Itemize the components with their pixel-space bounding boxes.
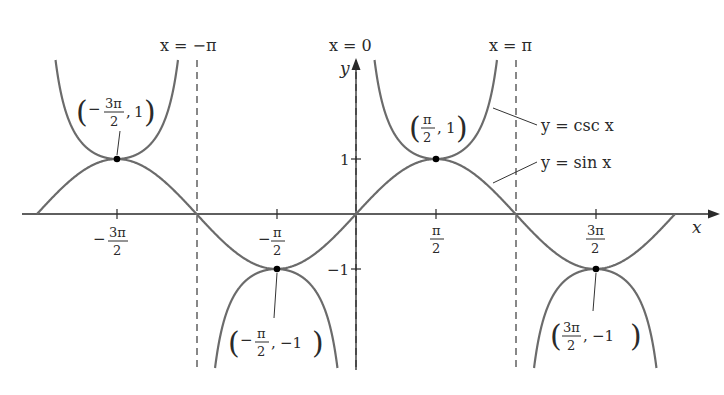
asymptote-label-zero: x = 0 — [329, 36, 372, 55]
x-tick-label-neg-pi2: − π 2 — [258, 225, 285, 258]
svg-text:−1: −1 — [280, 334, 302, 352]
x-tick-label-neg-3pi2: − 3π 2 — [93, 225, 128, 258]
asymptote-label-neg-pi: x = −π — [160, 36, 217, 55]
point-label-neg-3pi2: ( − 3π 2 , 1 ) — [76, 94, 156, 129]
legend-label-csc: y = csc x — [540, 116, 614, 135]
svg-text:−1: −1 — [592, 327, 614, 345]
svg-text:π: π — [423, 112, 432, 127]
y-axis-arrow-icon — [352, 58, 361, 70]
svg-text:2: 2 — [110, 114, 118, 129]
point-label-neg-pi2: ( − π 2 , −1 ) — [228, 325, 324, 360]
svg-text:): ) — [456, 110, 468, 145]
svg-text:,: , — [126, 103, 131, 121]
x-axis-arrow-icon — [708, 210, 720, 219]
point-neg-3pi2 — [114, 156, 121, 163]
svg-text:(: ( — [550, 318, 562, 353]
svg-text:): ) — [312, 325, 324, 360]
svg-text:1: 1 — [446, 119, 456, 137]
svg-text:−: − — [258, 230, 271, 248]
y-tick-label: −1 — [327, 261, 349, 279]
cosecant-branch — [375, 60, 497, 159]
svg-text:2: 2 — [273, 243, 281, 258]
svg-text:3π: 3π — [587, 223, 604, 238]
svg-text:−: − — [88, 100, 101, 118]
svg-text:(: ( — [409, 110, 421, 145]
y-tick-label: 1 — [340, 151, 350, 169]
svg-text:(: ( — [228, 325, 240, 360]
svg-text:,: , — [583, 327, 588, 345]
x-axis-label: x — [692, 217, 702, 237]
svg-text:(: ( — [76, 94, 88, 129]
svg-text:): ) — [630, 318, 642, 353]
leader-line — [274, 273, 277, 318]
svg-text:3π: 3π — [105, 96, 122, 111]
svg-text:π: π — [273, 225, 282, 240]
svg-text:,: , — [271, 334, 276, 352]
x-tick-label-3pi2: 3π 2 — [586, 223, 605, 256]
leader-line — [493, 162, 537, 183]
leader-line — [117, 131, 120, 155]
point-3pi2 — [593, 266, 600, 273]
leader-line — [593, 273, 596, 311]
svg-text:): ) — [144, 94, 156, 129]
svg-text:,: , — [437, 119, 442, 137]
svg-text:π: π — [257, 326, 266, 341]
asymptote-label-pi: x = π — [489, 36, 532, 55]
point-label-3pi2: ( 3π 2 , −1 ) — [550, 318, 642, 353]
svg-text:2: 2 — [257, 344, 265, 359]
point-pi2 — [433, 156, 440, 163]
svg-text:−: − — [93, 230, 106, 248]
svg-text:2: 2 — [423, 130, 431, 145]
point-neg-pi2 — [274, 266, 281, 273]
svg-text:3π: 3π — [109, 225, 126, 240]
csc-sin-chart: x = −π x = 0 x = π y x 1 −1 − 3π 2 − π 2… — [0, 0, 724, 395]
y-axis-label: y — [339, 58, 350, 78]
svg-text:3π: 3π — [563, 320, 580, 335]
svg-text:2: 2 — [113, 243, 121, 258]
svg-text:π: π — [432, 223, 441, 238]
point-label-pi2: ( π 2 , 1 ) — [409, 110, 468, 145]
svg-text:2: 2 — [432, 241, 440, 256]
x-tick-label-pi2: π 2 — [430, 223, 444, 256]
legend-label-sin: y = sin x — [540, 153, 611, 172]
svg-text:−: − — [240, 331, 253, 349]
svg-text:1: 1 — [134, 103, 144, 121]
svg-text:2: 2 — [591, 241, 599, 256]
svg-text:2: 2 — [567, 338, 575, 353]
leader-line — [493, 108, 537, 125]
